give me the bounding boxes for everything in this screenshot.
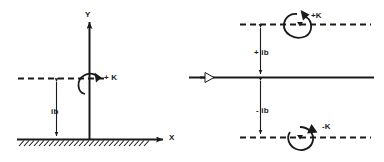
right-upper-rotation-arc <box>284 10 311 38</box>
left-height-label-ib: ib <box>51 108 59 116</box>
diagram-vector-layer <box>0 0 384 162</box>
left-rotation-label: + K <box>104 74 117 82</box>
diagram-canvas: Y X ib + K + ib - ib +K -K <box>0 0 384 162</box>
right-offset-lower-label: - ib <box>256 107 269 115</box>
left-x-axis-label: X <box>169 134 175 142</box>
right-offset-upper-label: + ib <box>254 49 269 57</box>
right-axis-direction-marker <box>189 73 214 83</box>
ground-hatching <box>19 141 149 147</box>
left-y-axis-label: Y <box>85 11 91 19</box>
right-rotation-lower-label: -K <box>322 123 331 131</box>
right-rotation-upper-label: +K <box>311 12 322 20</box>
